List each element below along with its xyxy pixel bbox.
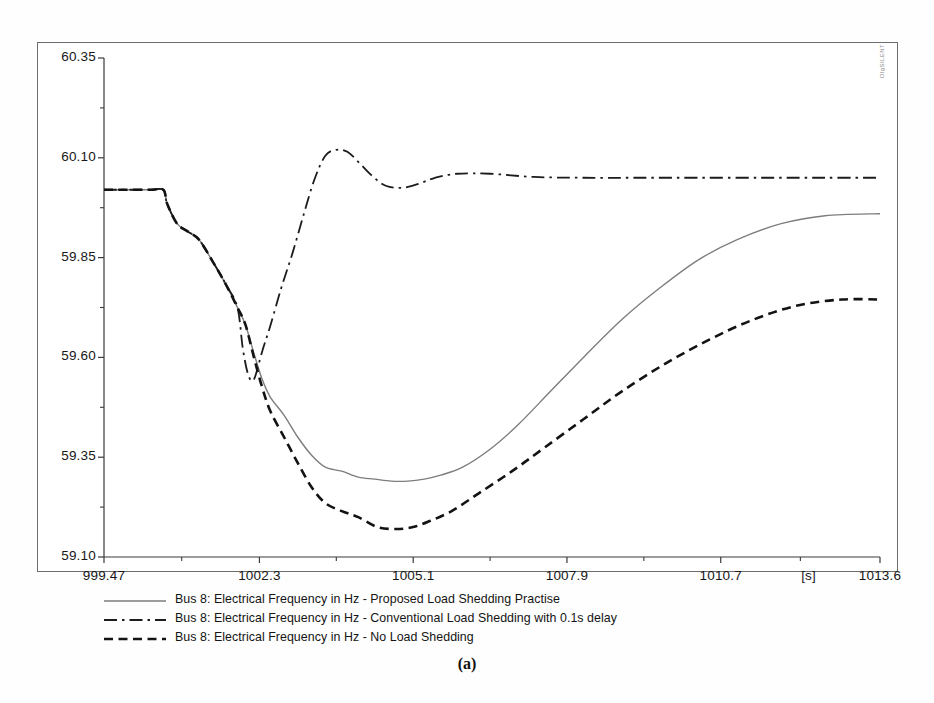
legend-item-label: Bus 8: Electrical Frequency in Hz - Prop… (175, 592, 560, 606)
y-axis-tick-label: 60.10 (26, 149, 96, 164)
figure-caption: (a) (0, 655, 934, 673)
y-axis-tick-label: 59.35 (26, 448, 96, 463)
legend-line-sample (104, 593, 166, 605)
x-axis-tick-label: 1002.3 (214, 568, 304, 583)
legend-item[interactable]: Bus 8: Electrical Frequency in Hz - Conv… (104, 608, 864, 627)
y-axis-tick-label: 60.35 (26, 49, 96, 64)
x-axis-unit-label: [s] (764, 568, 854, 583)
figure-page: DIgSILENT 60.3560.1059.8559.6059.3559.10… (0, 0, 934, 703)
x-axis-tick-label: 1007.9 (522, 568, 612, 583)
y-axis-tick-label: 59.85 (26, 249, 96, 264)
y-axis-tick-label: 59.10 (26, 548, 96, 563)
legend-item[interactable]: Bus 8: Electrical Frequency in Hz - No L… (104, 627, 864, 646)
series-line-2 (104, 150, 880, 382)
legend-item-label: Bus 8: Electrical Frequency in Hz - No L… (175, 630, 474, 644)
legend-item[interactable]: Bus 8: Electrical Frequency in Hz - Prop… (104, 589, 864, 608)
series-line-3 (104, 189, 880, 529)
y-axis-tick-label: 59.60 (26, 348, 96, 363)
series-line-1 (104, 189, 880, 482)
x-axis-tick-label: 1005.1 (368, 568, 458, 583)
series-group (104, 150, 880, 529)
legend-line-sample (104, 631, 166, 643)
x-axis-tick-label: 1010.7 (676, 568, 766, 583)
chart-legend: Bus 8: Electrical Frequency in Hz - Prop… (104, 589, 864, 646)
legend-item-label: Bus 8: Electrical Frequency in Hz - Conv… (175, 611, 617, 625)
legend-line-sample (104, 612, 166, 624)
x-axis-tick-label: 999.47 (59, 568, 149, 583)
